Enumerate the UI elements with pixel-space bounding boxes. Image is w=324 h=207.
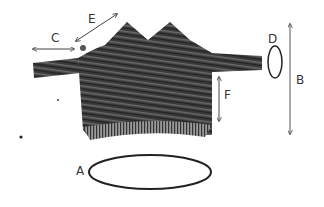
hem-ellipse-a (89, 155, 211, 189)
neck-mark (80, 45, 86, 51)
sweater-body (78, 22, 212, 138)
label-f: F (224, 89, 231, 101)
label-a: A (76, 165, 84, 177)
stray-dot (19, 135, 22, 138)
left-sleeve (33, 58, 80, 78)
right-sleeve (210, 53, 262, 72)
label-c: C (51, 32, 59, 44)
arrow-e (76, 14, 117, 41)
label-b: B (296, 74, 304, 86)
label-d: D (268, 33, 277, 45)
label-e: E (88, 13, 96, 25)
cuff-ellipse-d (268, 46, 282, 78)
stray-dot (57, 99, 59, 101)
